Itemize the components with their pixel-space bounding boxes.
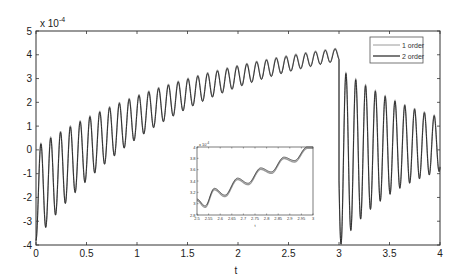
inset-background	[197, 147, 313, 215]
inset-x-tick-label: 3	[312, 216, 315, 221]
inset-x-tick-label: 2.65	[228, 216, 237, 221]
y-tick-label: 0	[26, 144, 32, 155]
inset-x-tick-label: 2.85	[274, 216, 283, 221]
x-tick-label: 0.5	[80, 248, 94, 259]
inset-y-tick-label: 3	[193, 201, 196, 206]
inset-y-tick-label: 3.4	[190, 179, 196, 184]
legend-label-1-order: 1 order	[402, 42, 425, 49]
x-tick-label: 3.5	[383, 248, 397, 259]
inset-y-tick-label: 3.2	[190, 190, 196, 195]
line-chart: 00.511.522.533.54-4-3-2-1012345 x 10-4 t…	[0, 0, 465, 278]
inset-x-axis-label: t	[254, 223, 256, 228]
x-axis-label: t	[235, 265, 238, 276]
x-tick-label: 2	[235, 248, 241, 259]
legend: 1 order 2 order	[370, 37, 425, 63]
inset-x-tick-label: 2.7	[241, 216, 247, 221]
inset-x-tick-label: 2.75	[251, 216, 260, 221]
inset-chart: 2.52.552.62.652.72.752.82.852.92.9532.83…	[190, 141, 315, 229]
y-tick-label: -1	[23, 168, 32, 179]
y-scale-label: x 10-4	[40, 16, 65, 29]
inset-y-tick-label: 2.8	[190, 213, 196, 218]
y-tick-label: 1	[26, 121, 32, 132]
inset-y-tick-label: 3.8	[190, 156, 196, 161]
inset-y-tick-label: 4	[193, 145, 196, 150]
inset-x-tick-label: 2.95	[298, 216, 307, 221]
inset-x-tick-label: 2.9	[287, 216, 293, 221]
y-tick-label: 4	[26, 49, 32, 60]
y-tick-label: 5	[26, 26, 32, 37]
inset-x-tick-label: 2.55	[205, 216, 214, 221]
x-tick-label: 1.5	[181, 248, 195, 259]
inset-x-tick-label: 2.6	[217, 216, 223, 221]
legend-label-2-order: 2 order	[402, 53, 425, 60]
y-tick-label: -2	[23, 192, 32, 203]
inset-y-tick-label: 3.6	[190, 167, 196, 172]
inset-y-scale-label: x 10-4	[199, 141, 210, 147]
y-tick-label: -4	[23, 240, 32, 251]
inset-x-tick-label: 2.8	[264, 216, 270, 221]
y-tick-label: -3	[23, 216, 32, 227]
x-tick-label: 0	[33, 248, 39, 259]
x-tick-label: 2.5	[282, 248, 296, 259]
x-tick-label: 1	[134, 248, 140, 259]
y-tick-label: 3	[26, 73, 32, 84]
y-tick-label: 2	[26, 97, 32, 108]
x-tick-label: 3	[336, 248, 342, 259]
x-tick-label: 4	[437, 248, 443, 259]
